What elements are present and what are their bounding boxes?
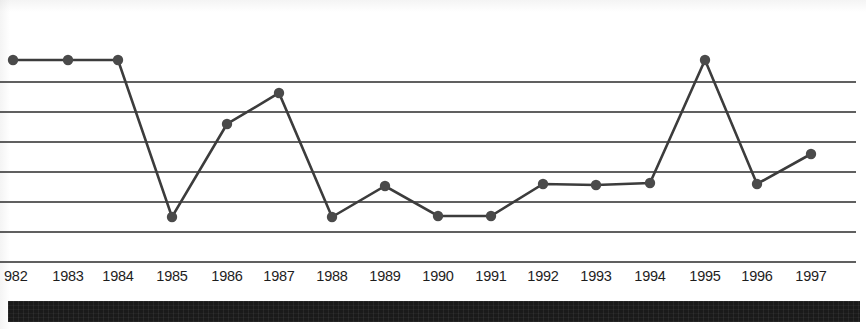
data-point-marker[interactable] — [222, 119, 232, 129]
x-tick-label: 1987 — [263, 268, 294, 284]
x-tick-label: 1993 — [580, 268, 611, 284]
chart-page: 9821983198419851986198719881989199019911… — [0, 0, 866, 329]
footer-black-bar — [8, 301, 860, 322]
series-1-line — [13, 60, 811, 217]
x-tick-label: 1994 — [634, 268, 665, 284]
data-point-marker[interactable] — [327, 212, 337, 222]
x-tick-label: 1990 — [422, 268, 453, 284]
x-tick-label: 1984 — [102, 268, 133, 284]
chart-plot-area — [0, 0, 866, 285]
data-point-marker[interactable] — [167, 212, 177, 222]
x-tick-label: 1985 — [156, 268, 187, 284]
data-point-marker[interactable] — [752, 179, 762, 189]
x-axis-tick-labels: 9821983198419851986198719881989199019911… — [0, 268, 866, 294]
data-point-marker[interactable] — [113, 55, 123, 65]
data-point-marker[interactable] — [8, 55, 18, 65]
x-tick-label: 1989 — [369, 268, 400, 284]
x-tick-label: 982 — [4, 268, 28, 284]
x-tick-label: 1983 — [52, 268, 83, 284]
data-point-marker[interactable] — [700, 55, 710, 65]
x-tick-label: 1995 — [689, 268, 720, 284]
data-point-marker[interactable] — [806, 149, 816, 159]
x-tick-label: 1992 — [527, 268, 558, 284]
data-point-marker[interactable] — [645, 178, 655, 188]
data-point-marker[interactable] — [433, 211, 443, 221]
data-point-marker[interactable] — [591, 180, 601, 190]
data-point-marker[interactable] — [63, 55, 73, 65]
x-tick-label: 1997 — [795, 268, 826, 284]
x-tick-label: 1986 — [211, 268, 242, 284]
x-tick-label: 1991 — [475, 268, 506, 284]
data-point-marker[interactable] — [538, 179, 548, 189]
x-tick-label: 1988 — [316, 268, 347, 284]
data-point-marker[interactable] — [380, 181, 390, 191]
line-chart-svg — [0, 0, 866, 285]
data-point-marker[interactable] — [274, 88, 284, 98]
data-point-marker[interactable] — [486, 211, 496, 221]
gridline-group — [0, 82, 856, 262]
x-tick-label: 1996 — [741, 268, 772, 284]
